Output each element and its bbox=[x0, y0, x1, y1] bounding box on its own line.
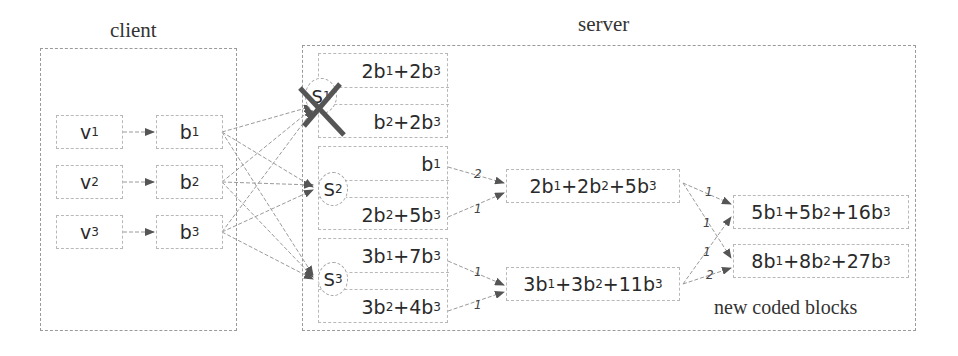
new-coded-block-2: 8b1+8b2+27b3 bbox=[733, 244, 909, 278]
block-label: b bbox=[180, 171, 192, 193]
failed-cross-icon bbox=[296, 80, 356, 140]
edge-weight: 2 bbox=[474, 167, 482, 181]
encoded-block-b1: b1 bbox=[156, 115, 223, 149]
edge-weight: 1 bbox=[705, 185, 713, 199]
edge-weight: 1 bbox=[474, 202, 482, 216]
server-title: server bbox=[578, 12, 629, 37]
source-block-v1: v1 bbox=[56, 115, 123, 149]
edge-weight: 1 bbox=[474, 298, 482, 312]
new-coded-block-1: 5b1+5b2+16b3 bbox=[733, 195, 909, 229]
node-label: S bbox=[323, 179, 334, 200]
source-block-v2: v2 bbox=[56, 165, 123, 199]
node-s2-circle: S2 bbox=[318, 172, 348, 206]
block-label: b bbox=[180, 121, 192, 143]
intermediate-block-1: 2b1+2b2+5b3 bbox=[506, 169, 680, 203]
block-label: b bbox=[180, 221, 192, 243]
node-s3-circle: S3 bbox=[318, 262, 348, 296]
block-label: v bbox=[80, 171, 91, 193]
encoded-block-b2: b2 bbox=[156, 165, 223, 199]
edge-weight: 1 bbox=[703, 245, 711, 259]
intermediate-block-2: 3b1+3b2+11b3 bbox=[506, 267, 680, 301]
edge-weight: 2 bbox=[706, 268, 714, 282]
node-label: S bbox=[323, 269, 334, 290]
client-title: client bbox=[110, 18, 157, 43]
block-label: v bbox=[80, 121, 91, 143]
new-coded-blocks-caption: new coded blocks bbox=[714, 296, 857, 319]
edge-weight: 1 bbox=[703, 216, 711, 230]
source-block-v3: v3 bbox=[56, 215, 123, 249]
edge-weight: 1 bbox=[474, 265, 482, 279]
encoded-block-b3: b3 bbox=[156, 215, 223, 249]
block-label: v bbox=[80, 221, 91, 243]
